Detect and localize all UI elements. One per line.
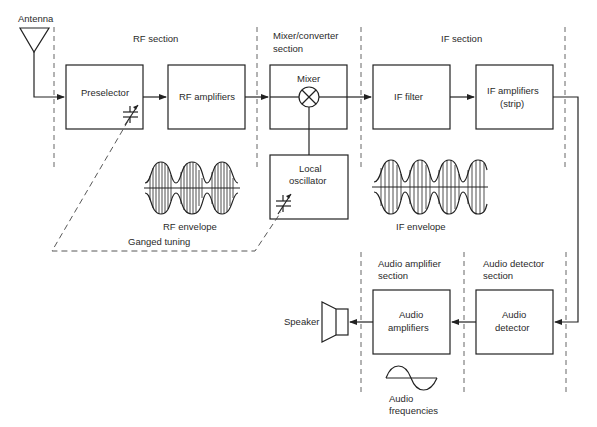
section-label-mixer-2: section	[273, 43, 303, 54]
local-osc-label-2: oscillator	[289, 175, 327, 186]
audio-detector-label-1: Audio	[502, 309, 526, 320]
audio-amps-label-2: amplifiers	[388, 322, 429, 333]
antenna-icon	[20, 28, 64, 97]
speaker-icon	[322, 302, 348, 342]
section-label-rf: RF section	[133, 33, 178, 44]
mixer-label: Mixer	[297, 73, 320, 84]
section-label-audio-amp-2: section	[378, 270, 408, 281]
ganged-tuning-label: Ganged tuning	[128, 236, 190, 247]
section-label-audio-amp-1: Audio amplifier	[378, 258, 441, 269]
if-amps-label-1: IF amplifiers	[487, 85, 539, 96]
section-label-audio-det-1: Audio detector	[483, 258, 544, 269]
receiver-diagram: RF section Mixer/converter section IF se…	[0, 0, 597, 427]
am-envelope-icon	[144, 162, 240, 214]
speaker-label: Speaker	[284, 316, 319, 327]
section-label-mixer-1: Mixer/converter	[273, 30, 338, 41]
antenna-label: Antenna	[18, 13, 54, 24]
section-label-audio-det-2: section	[483, 270, 513, 281]
am-envelope-icon	[372, 160, 488, 214]
sine-wave-icon	[386, 366, 437, 390]
rf-amplifiers-label: RF amplifiers	[179, 91, 235, 102]
if-filter-label: IF filter	[394, 91, 423, 102]
preselector-label: Preselector	[81, 87, 129, 98]
local-osc-label-1: Local	[299, 163, 322, 174]
if-amplifiers-block	[476, 65, 553, 129]
if-amps-label-2: (strip)	[500, 98, 524, 109]
if-envelope-label: IF envelope	[396, 221, 446, 232]
audio-freq-label-1: Audio	[389, 393, 413, 404]
section-label-if: IF section	[441, 33, 482, 44]
rf-envelope-label: RF envelope	[163, 221, 217, 232]
audio-detector-label-2: detector	[495, 322, 529, 333]
audio-freq-label-2: frequencies	[389, 405, 438, 416]
audio-amps-label-1: Audio	[399, 309, 423, 320]
